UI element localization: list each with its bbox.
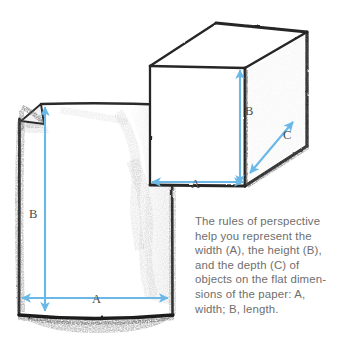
paper-label-a: A <box>92 293 101 306</box>
cube-drawing <box>150 23 309 188</box>
illustration-canvas: A B C A B The rules of perspective help … <box>0 0 361 347</box>
cube-front-face <box>150 66 245 186</box>
cube-label-c: C <box>283 129 291 142</box>
cube-label-a: A <box>191 178 200 191</box>
caption-text: The rules of perspective help you repres… <box>195 214 359 316</box>
cube-label-b: B <box>245 105 253 118</box>
paper-label-b: B <box>29 208 37 221</box>
paper-left-edge-shading <box>15 120 25 312</box>
